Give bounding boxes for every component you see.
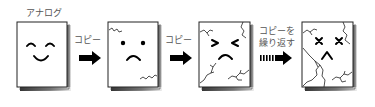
- page-original: [17, 22, 71, 91]
- dotted-arrow-right-icon: [260, 51, 292, 65]
- repeat-label-line1: コピーを: [259, 26, 295, 36]
- arrow-right-icon: [79, 51, 101, 65]
- arrow-right-icon: [170, 51, 192, 65]
- repeat-label-line2: 繰り返す: [259, 37, 295, 48]
- copy-label-2: コピー: [165, 35, 192, 45]
- copy-label-1: コピー: [74, 35, 101, 45]
- page-copy-2: [199, 22, 254, 91]
- page-copy-1: [108, 22, 162, 91]
- paper-sheet: [17, 22, 67, 87]
- analog-label: アナログ: [26, 7, 62, 18]
- page-copy-repeated: [302, 22, 357, 91]
- analog-copy-degradation-diagram: アナログ コピー: [0, 0, 375, 107]
